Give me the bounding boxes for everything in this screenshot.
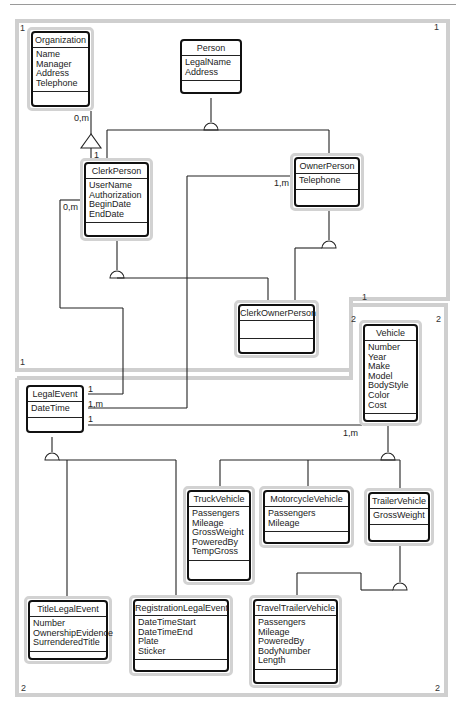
entity-title: ClerkOwnerPerson [240, 306, 313, 321]
entity-truck-vehicle[interactable]: TruckVehicle Passengers Mileage GrossWei… [183, 486, 255, 585]
attribute: Length [258, 656, 333, 666]
entity-clerk-owner-person[interactable]: ClerkOwnerPerson [234, 300, 319, 358]
entity-title: RegistrationLegalEvent [135, 601, 227, 616]
entity-title: OwnerPerson [296, 159, 358, 174]
entity-title: ClerkPerson [86, 164, 147, 179]
entity-operations [135, 660, 227, 670]
entity-attributes: DateTimeStart DateTimeEnd Plate Sticker [135, 616, 227, 660]
entity-attributes: Passengers Mileage GrossWeight PoweredBy… [189, 507, 249, 561]
entity-trailer-vehicle[interactable]: TrailerVehicle GrossWeight [364, 488, 434, 546]
entity-owner-person[interactable]: OwnerPerson Telephone [290, 153, 364, 211]
attribute: TempGross [192, 547, 246, 557]
entity-attributes: UserName Authorization BeginDate EndDate [86, 179, 147, 223]
entity-attributes: DateTime [28, 402, 82, 418]
entity-operations [265, 532, 348, 542]
entity-operations [365, 414, 416, 420]
entity-operations [182, 81, 240, 92]
multiplicity-label: 0,m [63, 202, 78, 212]
entity-title: MotorcycleVehicle [265, 492, 348, 507]
region-1-number: 1 [20, 23, 25, 33]
entity-title: Organization [33, 33, 88, 48]
entity-clerk-person[interactable]: ClerkPerson UserName Authorization Begin… [80, 158, 153, 241]
entity-title: Person [182, 41, 240, 56]
entity-organization[interactable]: Organization Name Manager Address Teleph… [27, 27, 94, 111]
region-1-number: 1 [362, 292, 367, 302]
entity-operations [28, 418, 82, 431]
entity-attributes: LegalName Address [182, 56, 240, 81]
entity-operations [30, 652, 106, 658]
region-2-number: 2 [351, 314, 356, 324]
entity-operations [189, 561, 249, 579]
entity-attributes: Name Manager Address Telephone [33, 48, 88, 92]
region-2-number: 2 [435, 683, 440, 693]
attribute: Sticker [138, 647, 224, 657]
multiplicity-label: 1,m [343, 428, 358, 438]
multiplicity-label: 1 [88, 414, 93, 424]
entity-title: TravelTrailerVehicle [255, 601, 336, 616]
attribute: Mileage [268, 519, 345, 529]
entity-vehicle[interactable]: Vehicle Number Year Make Model BodyStyle… [359, 320, 422, 426]
entity-registration-legal-event[interactable]: RegistrationLegalEvent DateTimeStart Dat… [129, 595, 233, 676]
attribute: SurrenderedTitle [33, 638, 103, 648]
entity-attributes: Telephone [296, 174, 358, 190]
entity-attributes: Passengers Mileage [265, 507, 348, 532]
entity-title-legal-event[interactable]: TitleLegalEvent Number OwnershipEvidence… [24, 596, 112, 664]
attribute: Telephone [36, 79, 85, 89]
multiplicity-label: 1,m [88, 399, 103, 409]
entity-title: TitleLegalEvent [30, 602, 106, 617]
region-1-number: 1 [434, 22, 439, 32]
multiplicity-label: 0,m [74, 113, 89, 123]
region-1-number: 1 [20, 357, 25, 367]
entity-title: TruckVehicle [189, 492, 249, 507]
entity-operations [240, 339, 313, 352]
entity-attributes: Passengers Mileage PoweredBy BodyNumber … [255, 616, 336, 670]
entity-attributes: Number Year Make Model BodyStyle Color C… [365, 341, 416, 414]
entity-operations [255, 670, 336, 682]
attribute: Address [185, 68, 237, 78]
entity-travel-trailer-vehicle[interactable]: TravelTrailerVehicle Passengers Mileage … [249, 595, 342, 688]
attribute: Telephone [299, 176, 355, 186]
attribute: DateTime [31, 404, 79, 414]
entity-operations [296, 190, 358, 205]
attribute: GrossWeight [373, 511, 425, 521]
entity-attributes: GrossWeight [370, 509, 428, 525]
multiplicity-label: 1 [88, 384, 93, 394]
entity-title: LegalEvent [28, 387, 82, 402]
entity-attributes [240, 321, 313, 339]
entity-title: TrailerVehicle [370, 494, 428, 509]
attribute: Cost [368, 401, 413, 411]
region-2-number: 2 [21, 683, 26, 693]
attribute: EndDate [89, 210, 144, 220]
entity-title: Vehicle [365, 326, 416, 341]
entity-person[interactable]: Person LegalName Address [176, 35, 246, 98]
entity-operations [33, 92, 88, 105]
entity-attributes: Number OwnershipEvidence SurrenderedTitl… [30, 617, 106, 652]
entity-legal-event[interactable]: LegalEvent DateTime [22, 381, 88, 437]
region-2-number: 2 [436, 314, 441, 324]
entity-operations [86, 223, 147, 235]
entity-operations [370, 525, 428, 540]
entity-motorcycle-vehicle[interactable]: MotorcycleVehicle Passengers Mileage [259, 486, 354, 548]
multiplicity-label: 1,m [274, 178, 289, 188]
